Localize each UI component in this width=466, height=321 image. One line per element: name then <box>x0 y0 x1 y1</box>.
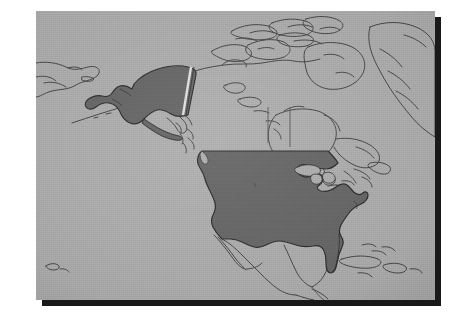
us-lake-huron <box>323 172 336 183</box>
us-lake-michigan <box>311 174 323 184</box>
map-plate <box>36 11 435 300</box>
north-america-map <box>36 11 435 300</box>
screenshot-canvas <box>0 0 466 321</box>
